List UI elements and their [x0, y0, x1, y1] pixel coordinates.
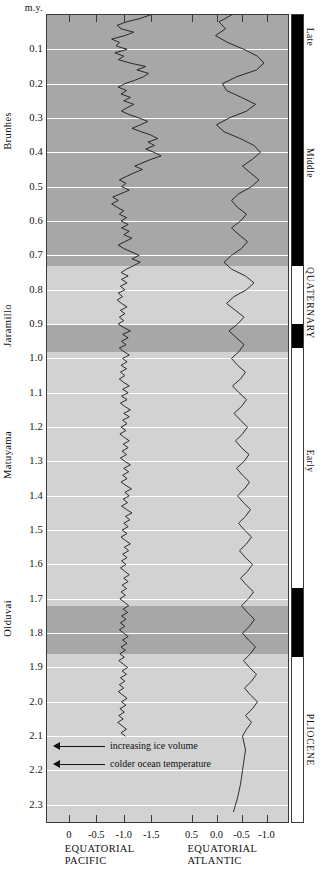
time-axis-tick-label: 2.1	[29, 731, 43, 741]
epoch-label-early: Early	[305, 450, 315, 473]
epoch-label-late: Late	[305, 28, 315, 46]
panel-caption: EQUATORIALATLANTIC	[188, 843, 258, 867]
panel-caption-line: PACIFIC	[65, 855, 135, 867]
epoch-label-quaternary: QUATERNARY	[305, 268, 315, 340]
pacific-curve	[112, 15, 161, 736]
panel-caption-line: EQUATORIAL	[65, 843, 135, 855]
arrow-shaft	[59, 764, 105, 765]
time-axis-tick-label: 2.0	[29, 697, 43, 707]
time-axis-tick-label: 0.1	[29, 44, 43, 54]
epoch-label-pliocene: PLIOCENE	[305, 713, 315, 765]
panel-caption: EQUATORIALPACIFIC	[65, 843, 135, 867]
arrow-shaft	[59, 746, 105, 747]
epoch-label-middle: Middle	[305, 148, 315, 178]
chron-label-matuyama: Matuyama	[2, 431, 13, 479]
time-axis-tick-label: 2.3	[29, 800, 43, 810]
time-axis-header: m.y.	[25, 2, 43, 13]
annotation-text: increasing ice volume	[110, 740, 198, 751]
time-axis-tick-label: 1.1	[29, 388, 43, 398]
normal-polarity-block	[292, 15, 303, 266]
x-axis-tick-label: -0.5	[88, 829, 105, 840]
time-axis-tick-label: 1.3	[29, 456, 43, 466]
isotope-curve-layer	[47, 15, 288, 822]
time-axis-tick-label: 1.5	[29, 525, 43, 535]
x-axis-tick-label: -0.5	[233, 829, 250, 840]
x-axis-tick-label: -1.0	[258, 829, 275, 840]
annotation-row: increasing ice volume	[53, 741, 253, 751]
time-axis-tick-label: 1.7	[29, 594, 43, 604]
time-axis-tick-label: 1.0	[29, 353, 43, 363]
time-axis-tick-label: 0.7	[29, 250, 43, 260]
paleoclimate-oxygen-isotope-figure: m.y. 0.10.20.30.40.50.60.70.80.91.01.11.…	[0, 0, 320, 871]
normal-polarity-block	[292, 588, 303, 657]
time-axis-tick-label: 1.8	[29, 628, 43, 638]
time-axis-tick-label: 1.2	[29, 422, 43, 432]
time-axis-tick-label: 0.8	[29, 285, 43, 295]
time-axis-tick-label: 0.3	[29, 113, 43, 123]
time-axis-tick-label: 1.4	[29, 491, 43, 501]
time-axis-tick-label: 2.2	[29, 765, 43, 775]
time-axis-tick-label: 1.6	[29, 559, 43, 569]
time-axis-tick-label: 1.9	[29, 662, 43, 672]
time-axis-tick-label: 0.5	[29, 182, 43, 192]
x-axis-tick-label: -1.5	[143, 829, 160, 840]
isotope-plot-panel: increasing ice volumecolder ocean temper…	[46, 14, 289, 823]
chron-label-olduvai: Olduvai	[2, 600, 13, 637]
time-axis-tick-label: 0.9	[29, 319, 43, 329]
chron-label-brunhes: Brunhes	[2, 112, 13, 150]
time-axis-tick-label: 0.6	[29, 216, 43, 226]
time-axis-tick-label: 0.2	[29, 79, 43, 89]
normal-polarity-block	[292, 324, 303, 348]
annotation-row: colder ocean temperature	[53, 759, 253, 769]
panel-caption-line: ATLANTIC	[188, 855, 258, 867]
x-axis-tick-label: -1.0	[115, 829, 132, 840]
x-axis-tick-label: 0.0	[210, 829, 223, 840]
panel-caption-line: EQUATORIAL	[188, 843, 258, 855]
chron-label-jaramillo: Jaramillo	[2, 304, 13, 347]
magnetic-polarity-column	[291, 14, 304, 823]
time-axis-tick-label: 0.4	[29, 147, 43, 157]
annotation-text: colder ocean temperature	[110, 758, 211, 769]
x-axis-tick-label: 0	[66, 829, 71, 840]
x-axis-tick-label: 0.5	[185, 829, 198, 840]
atlantic-curve	[216, 15, 265, 812]
